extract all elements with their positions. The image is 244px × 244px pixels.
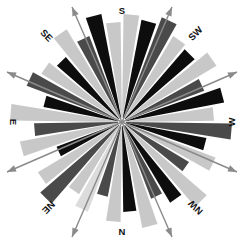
compass-label-w: W — [226, 117, 237, 126]
compass-label-e: E — [8, 119, 19, 125]
compass-label-s: S — [119, 5, 125, 16]
wind-rose-svg: SSWWNWNNEESE — [0, 0, 244, 244]
wind-rose-figure: SSWWNWNNEESE — [0, 0, 244, 244]
compass-label-n: N — [119, 226, 126, 237]
